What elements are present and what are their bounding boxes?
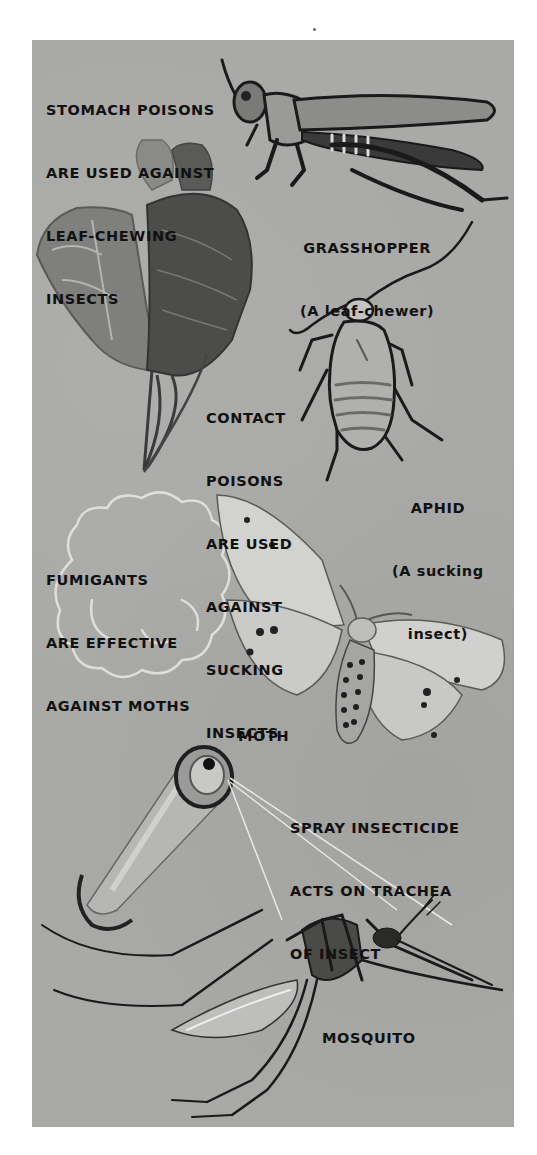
- insect-note: insect): [392, 624, 484, 645]
- caption-line: AGAINST MOTHS: [46, 696, 190, 717]
- caption-line: FUMIGANTS: [46, 570, 190, 591]
- caption-line: OF INSECT: [290, 944, 460, 965]
- caption-line: LEAF-CHEWING: [46, 226, 215, 247]
- stomach-poisons-caption: STOMACH POISONS ARE USED AGAINST LEAF-CH…: [46, 58, 215, 352]
- moth-label: MOTH: [238, 684, 289, 789]
- caption-line: CONTACT: [206, 408, 292, 429]
- insect-note: (A sucking: [392, 561, 484, 582]
- grasshopper-label: GRASSHOPPER (A leaf-chewer): [300, 196, 434, 364]
- caption-line: ARE USED: [206, 534, 292, 555]
- insect-name: GRASSHOPPER: [300, 238, 434, 259]
- caption-line: SPRAY INSECTICIDE: [290, 818, 460, 839]
- caption-line: POISONS: [206, 471, 292, 492]
- insect-name: MOTH: [238, 726, 289, 747]
- fumigants-caption: FUMIGANTS ARE EFFECTIVE AGAINST MOTHS: [46, 528, 190, 759]
- caption-line: ACTS ON TRACHEA: [290, 881, 460, 902]
- insect-name: MOSQUITO: [322, 1028, 416, 1049]
- illustration-panel: STOMACH POISONS ARE USED AGAINST LEAF-CH…: [32, 40, 514, 1127]
- insect-name: APHID: [392, 498, 484, 519]
- caption-line: ARE EFFECTIVE: [46, 633, 190, 654]
- caption-line: SUCKING: [206, 660, 292, 681]
- caption-line: ARE USED AGAINST: [46, 163, 215, 184]
- spray-insecticide-caption: SPRAY INSECTICIDE ACTS ON TRACHEA OF INS…: [290, 776, 460, 1007]
- caption-line: AGAINST: [206, 597, 292, 618]
- stray-dot: [313, 28, 316, 31]
- insect-note: (A leaf-chewer): [300, 301, 434, 322]
- caption-line: INSECTS: [46, 289, 215, 310]
- caption-line: STOMACH POISONS: [46, 100, 215, 121]
- mosquito-label: MOSQUITO: [322, 986, 416, 1091]
- grasshopper-icon: [222, 60, 507, 210]
- aphid-label: APHID (A sucking insect): [392, 456, 484, 687]
